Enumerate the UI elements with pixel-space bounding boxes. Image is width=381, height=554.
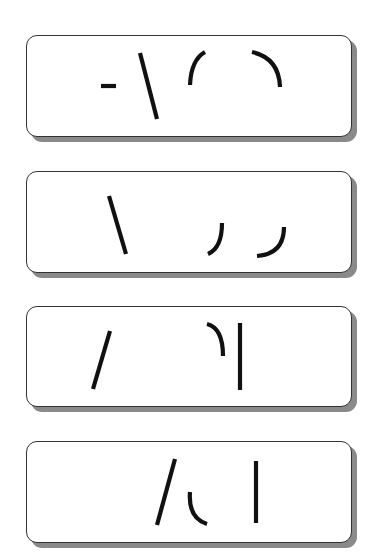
panel-4[interactable] [26,441,352,543]
panel-2[interactable] [26,171,352,273]
panel-3[interactable] [26,306,352,407]
panel-1[interactable] [26,35,352,137]
